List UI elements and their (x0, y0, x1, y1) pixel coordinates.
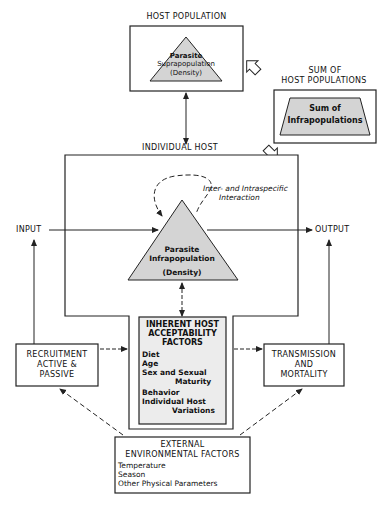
infrapopulation-label-2: Infrapopulation (136, 254, 228, 263)
external-item-season: Season (118, 470, 145, 479)
interaction-label-2: Interaction (219, 193, 260, 202)
transmission-label-2: AND (264, 360, 344, 369)
hollow-arrow-upper (241, 55, 264, 78)
external-to-transmission-arrow (240, 389, 302, 435)
inherent-item-variations: Variations (172, 406, 215, 415)
sum-host-populations-title-1: SUM OF (274, 66, 376, 75)
inherent-title-1: INHERENT HOST (139, 320, 226, 329)
sum-host-populations-title-2: HOST POPULATIONS (268, 76, 379, 85)
output-label: OUTPUT (315, 225, 349, 234)
suprapopulation-label-1: Parasite (150, 52, 222, 60)
infrapopulation-label-3: (Density) (140, 268, 224, 277)
inherent-title-3: FACTORS (139, 338, 226, 347)
inherent-item-sex: Sex and Sexual (142, 368, 207, 377)
individual-host-title: INDIVIDUAL HOST (120, 143, 240, 152)
external-to-recruitment-arrow (60, 389, 123, 435)
external-item-other: Other Physical Parameters (118, 479, 218, 488)
inherent-item-maturity: Maturity (175, 377, 211, 386)
host-population-title: HOST POPULATION (130, 12, 243, 21)
infrapopulation-label-1: Parasite (140, 245, 224, 254)
external-item-temperature: Temperature (118, 461, 166, 470)
input-label: INPUT (16, 225, 41, 234)
suprapopulation-label-3: (Density) (150, 69, 222, 77)
suprapopulation-label-2: Suprapopulation (146, 60, 226, 68)
recruitment-label-3: PASSIVE (16, 370, 98, 379)
recruitment-label-1: RECRUITMENT (16, 350, 98, 359)
sum-infrapopulations-label-1: Sum of (280, 104, 370, 113)
inherent-item-age: Age (142, 359, 158, 368)
external-title-1: EXTERNAL (115, 440, 250, 449)
external-title-2: ENVIRONMENTAL FACTORS (115, 450, 250, 459)
sum-infrapopulations-label-2: Infrapopulations (278, 116, 372, 125)
recruitment-label-2: ACTIVE & (16, 360, 98, 369)
transmission-label-3: MORTALITY (264, 370, 344, 379)
interaction-label-1: Inter- and Intraspecific (203, 184, 288, 193)
transmission-label-1: TRANSMISSION (264, 350, 344, 359)
inherent-item-individual: Individual Host (142, 397, 206, 406)
inherent-item-behavior: Behavior (142, 388, 180, 397)
inherent-title-2: ACCEPTABILITY (139, 329, 226, 338)
inherent-item-diet: Diet (142, 350, 159, 359)
